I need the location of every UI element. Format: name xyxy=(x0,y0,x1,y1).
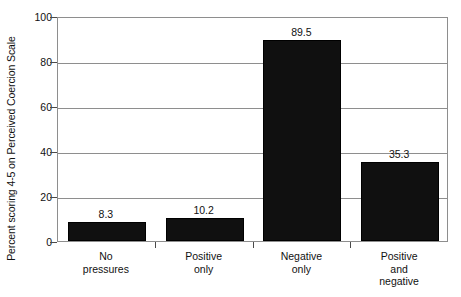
plot-area xyxy=(57,17,448,242)
x-axis-category-line: No xyxy=(57,250,155,263)
bar xyxy=(68,222,146,241)
x-axis-category-line: negative xyxy=(350,275,448,288)
gridline xyxy=(58,63,447,64)
y-axis-title: Percent scoring 4-5 on Perceived Coercio… xyxy=(0,0,22,297)
x-axis-category-label: Nopressures xyxy=(57,250,155,275)
x-axis-category-label: Positiveandnegative xyxy=(350,250,448,288)
bar-value-label: 89.5 xyxy=(271,27,331,38)
y-axis-tick-label: 100 xyxy=(20,12,52,23)
x-axis-category-line: and xyxy=(350,263,448,276)
bar xyxy=(263,40,341,241)
x-axis-tick-mark xyxy=(155,242,156,248)
y-axis-tick-mark xyxy=(50,17,57,18)
bar-chart-figure: Percent scoring 4-5 on Perceived Coercio… xyxy=(0,0,461,297)
y-axis-tick-mark xyxy=(50,197,57,198)
gridline xyxy=(58,108,447,109)
y-axis-tick-label: 20 xyxy=(20,192,52,203)
x-axis-category-line: Positive xyxy=(350,250,448,263)
y-axis-tick-label: 40 xyxy=(20,147,52,158)
bar-value-label: 8.3 xyxy=(76,209,136,220)
y-axis-tick-mark xyxy=(50,107,57,108)
y-axis-tick-label: 60 xyxy=(20,102,52,113)
y-axis-tick-label: 0 xyxy=(20,237,52,248)
x-axis-category-line: only xyxy=(155,263,253,276)
x-axis-tick-mark xyxy=(253,242,254,248)
plot-inner xyxy=(58,18,447,241)
bar xyxy=(361,162,439,241)
x-axis-tick-mark xyxy=(350,242,351,248)
x-axis-category-line: pressures xyxy=(57,263,155,276)
x-axis-category-line: only xyxy=(253,263,351,276)
bar-value-label: 35.3 xyxy=(369,149,429,160)
x-axis-category-label: Negativeonly xyxy=(253,250,351,275)
x-axis-category-line: Positive xyxy=(155,250,253,263)
x-axis-category-line: Negative xyxy=(253,250,351,263)
bar-value-label: 10.2 xyxy=(174,205,234,216)
y-axis-tick-mark xyxy=(50,152,57,153)
y-axis-tick-mark xyxy=(50,62,57,63)
y-axis-tick-label: 80 xyxy=(20,57,52,68)
x-axis-category-label: Positiveonly xyxy=(155,250,253,275)
bar xyxy=(166,218,244,241)
y-axis-tick-mark xyxy=(50,242,57,243)
